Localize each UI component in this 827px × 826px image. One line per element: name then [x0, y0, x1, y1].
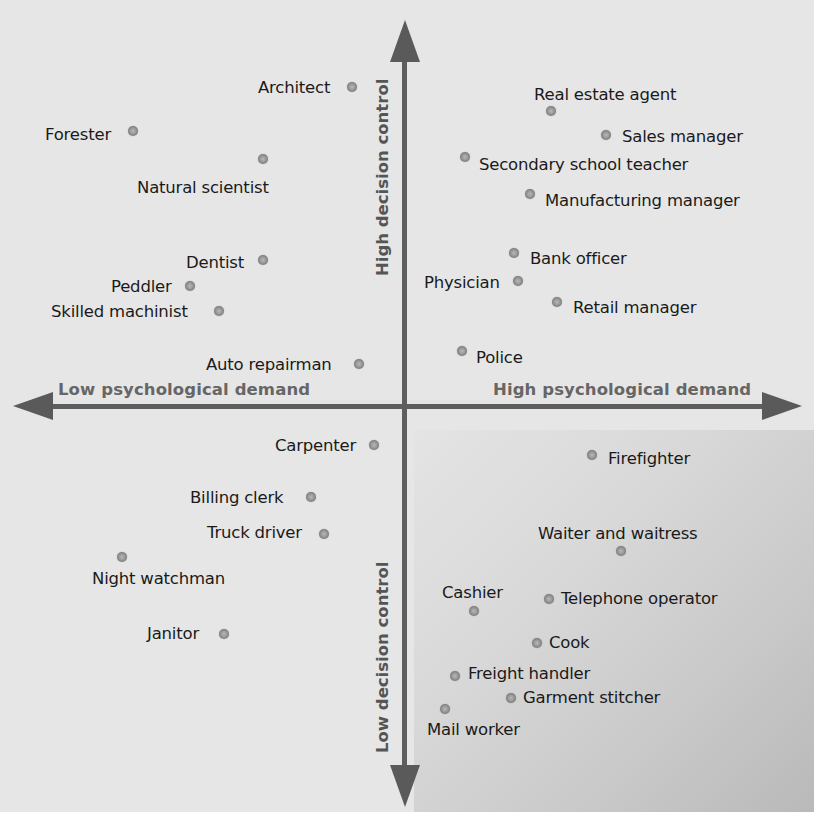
- point-label-truck-driver: Truck driver: [207, 523, 302, 543]
- point-label-janitor: Janitor: [147, 624, 199, 644]
- data-point-natural-scientist: [258, 154, 268, 164]
- point-label-night-watchman: Night watchman: [92, 569, 225, 589]
- data-point-cashier: [469, 606, 479, 616]
- data-point-bank-officer: [509, 248, 519, 258]
- data-point-skilled-machinist: [214, 306, 224, 316]
- arrow-left-icon: [13, 392, 53, 420]
- axis-label-low-psychological-demand: Low psychological demand: [58, 380, 310, 399]
- data-point-garment-stitcher: [506, 693, 516, 703]
- data-point-cook: [532, 638, 542, 648]
- data-point-peddler: [185, 281, 195, 291]
- point-label-auto-repairman: Auto repairman: [206, 355, 332, 375]
- axis-label-low-decision-control: Low decision control: [373, 562, 392, 753]
- point-label-police: Police: [476, 348, 523, 368]
- arrow-down-icon: [390, 765, 420, 807]
- data-point-waiter-and-waitress: [616, 546, 626, 556]
- data-point-real-estate-agent: [546, 106, 556, 116]
- point-label-cashier: Cashier: [442, 583, 503, 603]
- data-point-mail-worker: [440, 704, 450, 714]
- arrow-up-icon: [390, 20, 420, 62]
- data-point-retail-manager: [552, 297, 562, 307]
- point-label-real-estate-agent: Real estate agent: [534, 85, 676, 105]
- point-label-secondary-school-teacher: Secondary school teacher: [479, 155, 688, 175]
- point-label-waiter-and-waitress: Waiter and waitress: [538, 524, 698, 544]
- point-label-skilled-machinist: Skilled machinist: [51, 302, 188, 322]
- x-axis-line: [40, 404, 780, 409]
- arrow-right-icon: [762, 392, 802, 420]
- data-point-freight-handler: [450, 671, 460, 681]
- point-label-forester: Forester: [45, 125, 111, 145]
- data-point-architect: [347, 82, 357, 92]
- y-axis-line: [402, 40, 407, 780]
- point-label-garment-stitcher: Garment stitcher: [523, 688, 660, 708]
- point-label-retail-manager: Retail manager: [573, 298, 696, 318]
- chart-panel: Low psychological demand High psychologi…: [0, 0, 814, 812]
- point-label-dentist: Dentist: [186, 253, 244, 273]
- data-point-forester: [128, 126, 138, 136]
- point-label-manufacturing-manager: Manufacturing manager: [545, 191, 740, 211]
- data-point-sales-manager: [601, 130, 611, 140]
- data-point-truck-driver: [319, 529, 329, 539]
- data-point-auto-repairman: [354, 359, 364, 369]
- point-label-sales-manager: Sales manager: [622, 127, 743, 147]
- point-label-architect: Architect: [258, 78, 330, 98]
- data-point-carpenter: [369, 440, 379, 450]
- shaded-quadrant-high-demand-low-control: [414, 430, 814, 812]
- point-label-telephone-operator: Telephone operator: [561, 589, 717, 609]
- point-label-cook: Cook: [549, 633, 589, 653]
- point-label-carpenter: Carpenter: [275, 436, 356, 456]
- data-point-secondary-school-teacher: [460, 152, 470, 162]
- axis-label-high-psychological-demand: High psychological demand: [493, 380, 751, 399]
- data-point-manufacturing-manager: [525, 189, 535, 199]
- point-label-natural-scientist: Natural scientist: [137, 178, 269, 198]
- data-point-physician: [513, 276, 523, 286]
- data-point-janitor: [219, 629, 229, 639]
- point-label-billing-clerk: Billing clerk: [190, 488, 283, 508]
- data-point-police: [457, 346, 467, 356]
- data-point-dentist: [258, 255, 268, 265]
- point-label-mail-worker: Mail worker: [427, 720, 520, 740]
- point-label-peddler: Peddler: [111, 277, 172, 297]
- point-label-freight-handler: Freight handler: [468, 664, 590, 684]
- data-point-night-watchman: [117, 552, 127, 562]
- point-label-firefighter: Firefighter: [608, 449, 690, 469]
- data-point-billing-clerk: [306, 492, 316, 502]
- point-label-physician: Physician: [424, 273, 500, 293]
- data-point-firefighter: [587, 450, 597, 460]
- axis-label-high-decision-control: High decision control: [373, 79, 392, 276]
- data-point-telephone-operator: [544, 594, 554, 604]
- point-label-bank-officer: Bank officer: [530, 249, 627, 269]
